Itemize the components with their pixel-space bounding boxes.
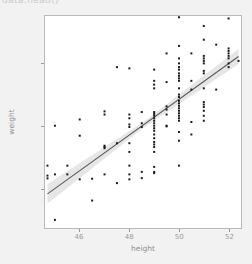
data-point [166, 114, 168, 116]
x-tick-label: 52 [225, 233, 234, 241]
data-point [203, 104, 205, 106]
data-point [203, 72, 205, 74]
data-point [46, 177, 48, 179]
data-point [203, 115, 205, 117]
data-point [153, 120, 155, 122]
y-tick-mark [41, 63, 44, 64]
data-point [54, 173, 56, 175]
data-point [153, 166, 155, 168]
data-point [203, 55, 205, 57]
data-point [141, 126, 143, 128]
data-point [153, 171, 155, 173]
data-point [190, 52, 192, 54]
data-point [153, 87, 155, 89]
data-point [190, 80, 192, 82]
data-point [178, 140, 180, 142]
data-point [104, 173, 106, 175]
data-point [190, 133, 192, 135]
x-axis-label: height [131, 244, 155, 253]
data-point [178, 75, 180, 77]
data-point [203, 25, 205, 27]
data-point [166, 81, 168, 83]
data-point [104, 110, 106, 112]
data-point [104, 114, 106, 116]
data-point [153, 137, 155, 139]
data-point [128, 151, 130, 153]
data-point [91, 200, 93, 202]
data-point [178, 102, 180, 104]
data-point [128, 173, 130, 175]
data-point [128, 142, 130, 144]
data-point [128, 114, 130, 116]
data-point [178, 131, 180, 133]
data-point [141, 177, 143, 179]
data-point [46, 165, 48, 167]
data-point [238, 60, 240, 62]
data-point [141, 171, 143, 173]
data-point [141, 111, 143, 113]
data-point [178, 115, 180, 117]
data-point [178, 69, 180, 71]
data-point [153, 133, 155, 135]
data-point [178, 110, 180, 112]
data-point [228, 57, 230, 59]
data-point [79, 119, 81, 121]
confidence-band [47, 49, 238, 204]
data-point [79, 178, 81, 180]
data-point [128, 126, 130, 128]
data-point [128, 117, 130, 119]
plot-panel [44, 15, 242, 229]
x-tick-mark [129, 229, 130, 232]
data-point [178, 45, 180, 47]
data-point [215, 44, 217, 46]
data-point [203, 101, 205, 103]
data-point [203, 62, 205, 64]
y-tick-mark [41, 189, 44, 190]
data-point [215, 89, 217, 91]
data-point [128, 67, 130, 69]
data-point [153, 146, 155, 148]
data-point [178, 105, 180, 107]
data-point [228, 18, 230, 20]
data-point [153, 141, 155, 143]
data-point [54, 125, 56, 127]
data-point [178, 80, 180, 82]
data-point [153, 125, 155, 127]
data-point [228, 50, 230, 52]
x-tick-label: 50 [175, 233, 184, 241]
data-point [153, 117, 155, 119]
data-point [203, 120, 205, 122]
data-point [203, 60, 205, 62]
data-point [178, 87, 180, 89]
data-point [128, 178, 130, 180]
regression-line [47, 57, 238, 194]
data-point [54, 219, 56, 221]
data-point [66, 173, 68, 175]
data-point [166, 52, 168, 54]
data-point [228, 47, 230, 49]
data-point [153, 80, 155, 82]
clipped-caption-strip: data.head() [0, 0, 252, 8]
data-point [116, 66, 118, 68]
data-point [203, 57, 205, 59]
data-point [153, 130, 155, 132]
data-point [178, 96, 180, 98]
data-point [153, 115, 155, 117]
data-point [166, 109, 168, 111]
data-point [178, 165, 180, 167]
data-point [203, 39, 205, 41]
clipped-caption-text: data.head() [2, 0, 59, 5]
data-point [91, 178, 93, 180]
scatter-plot-figure: data.head() height weight 46485052250030… [0, 0, 252, 264]
data-point [153, 143, 155, 145]
data-point [190, 121, 192, 123]
data-point [116, 182, 118, 184]
y-tick-mark [41, 126, 44, 127]
data-point [178, 57, 180, 59]
x-tick-mark [79, 229, 80, 232]
data-point [153, 69, 155, 71]
data-point [178, 100, 180, 102]
data-point [46, 175, 48, 177]
data-point [178, 120, 180, 122]
data-point [128, 124, 130, 126]
